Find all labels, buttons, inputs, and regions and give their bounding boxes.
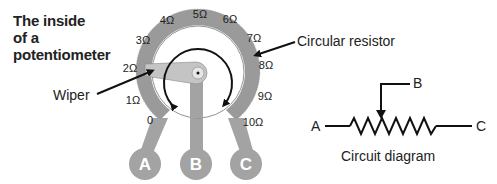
- circuit-terminal-a: A: [311, 118, 320, 134]
- terminal-a: A: [139, 155, 151, 175]
- scale-mark: 8Ω: [259, 59, 273, 71]
- scale-mark: 7Ω: [247, 32, 261, 44]
- circuit-terminal-b: B: [413, 75, 422, 91]
- scale-mark: 4Ω: [160, 14, 174, 26]
- wiper-label: Wiper: [53, 87, 90, 103]
- scale-mark: 2Ω: [123, 62, 137, 74]
- circuit-symbol: [325, 84, 472, 134]
- scale-mark: 10Ω: [243, 116, 263, 128]
- scale-mark: 9Ω: [258, 90, 272, 102]
- scale-mark: 0: [147, 114, 153, 126]
- scale-mark: 1Ω: [126, 94, 140, 106]
- terminal-c: C: [240, 155, 252, 175]
- circuit-terminal-c: C: [476, 118, 486, 134]
- circuit-diagram-label: Circuit diagram: [341, 148, 435, 164]
- scale-mark: 3Ω: [136, 34, 150, 46]
- terminal-b: B: [190, 155, 202, 175]
- scale-mark: 5Ω: [193, 8, 207, 20]
- wiper-arrow-icon: [376, 110, 386, 119]
- circular-resistor-label: Circular resistor: [297, 33, 395, 49]
- circular-resistor-pointer: [256, 42, 295, 55]
- scale-mark: 6Ω: [223, 13, 237, 25]
